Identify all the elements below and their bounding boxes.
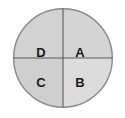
circle-graphic (13, 8, 113, 108)
circle-container: D A C B (13, 8, 113, 108)
quadrant-label-bottom-right: B (73, 76, 87, 89)
quadrant-label-bottom-left: C (34, 76, 48, 89)
quadrant-circle-diagram: D A C B (0, 0, 125, 118)
quadrant-label-top-left: D (34, 46, 48, 59)
quadrant-label-top-right: A (73, 46, 87, 59)
